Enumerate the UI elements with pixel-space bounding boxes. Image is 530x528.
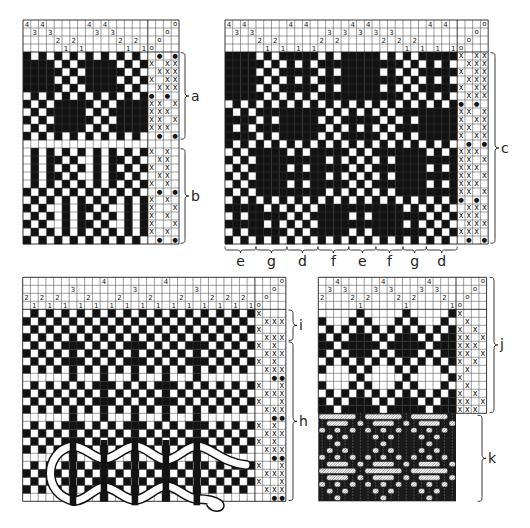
raised-warp-cell — [349, 397, 357, 405]
raised-warp-cell — [131, 421, 139, 429]
raised-warp-cell — [434, 212, 442, 220]
raised-warp-cell — [333, 228, 341, 236]
draft-panel-1: 4343212143432121oooo●●xxxxxxxxxxxx●●xxxx… — [23, 20, 200, 244]
raised-warp-cell — [372, 116, 380, 124]
raised-warp-cell — [208, 485, 216, 493]
raised-warp-cell — [131, 317, 139, 325]
threading-number: 1 — [451, 45, 455, 53]
raised-warp-cell — [131, 365, 139, 373]
raised-warp-cell — [224, 485, 232, 493]
liftplan-cross: x — [256, 437, 261, 446]
raised-warp-cell — [100, 389, 108, 397]
raised-warp-cell — [388, 212, 396, 220]
raised-warp-cell — [193, 317, 201, 325]
raised-warp-cell — [54, 84, 62, 92]
raised-warp-cell — [193, 333, 201, 341]
liftplan-dot: ● — [271, 454, 277, 462]
raised-warp-cell — [39, 52, 47, 60]
raised-warp-cell — [402, 397, 410, 405]
raised-warp-cell — [54, 68, 62, 76]
raised-warp-cell — [333, 180, 341, 188]
liftplan-cross: x — [466, 75, 471, 84]
raised-warp-cell — [264, 172, 272, 180]
raised-warp-cell — [426, 68, 434, 76]
raised-warp-cell — [433, 389, 441, 397]
raised-warp-cell — [402, 309, 410, 317]
raised-warp-cell — [23, 188, 31, 196]
raised-warp-cell — [318, 349, 326, 357]
raised-warp-cell — [318, 140, 326, 148]
raised-warp-cell — [380, 172, 388, 180]
raised-warp-cell — [140, 108, 148, 116]
raised-warp-cell — [326, 389, 334, 397]
raised-warp-cell — [326, 220, 334, 228]
raised-warp-cell — [372, 212, 380, 220]
liftplan-cross: x — [157, 155, 162, 164]
raised-warp-cell — [170, 421, 178, 429]
raised-warp-cell — [372, 228, 380, 236]
raised-warp-cell — [193, 413, 201, 421]
raised-warp-cell — [426, 132, 434, 140]
threading-number: 4 — [366, 21, 371, 29]
threading-number: 4 — [25, 21, 30, 29]
raised-warp-cell — [372, 196, 380, 204]
raised-warp-cell — [326, 148, 334, 156]
liftplan-cross: x — [457, 309, 462, 318]
threading-number: 3 — [358, 29, 362, 37]
liftplan-cross: x — [149, 179, 154, 188]
raised-warp-cell — [85, 389, 93, 397]
raised-warp-cell — [23, 204, 31, 212]
raised-warp-cell — [69, 317, 77, 325]
raised-warp-cell — [395, 365, 403, 373]
threading-number: 1 — [32, 302, 36, 310]
raised-warp-cell — [411, 164, 419, 172]
raised-warp-cell — [132, 52, 140, 60]
raised-warp-cell — [108, 341, 116, 349]
block-label: g — [267, 253, 276, 269]
raised-warp-cell — [310, 68, 318, 76]
threading-number: 4 — [164, 278, 169, 286]
raised-warp-cell — [402, 405, 410, 413]
section-brace — [491, 53, 499, 243]
raised-warp-cell — [85, 220, 93, 228]
raised-warp-cell — [39, 116, 47, 124]
raised-warp-cell — [310, 188, 318, 196]
raised-warp-cell — [240, 68, 248, 76]
raised-warp-cell — [341, 100, 349, 108]
raised-warp-cell — [123, 341, 131, 349]
raised-warp-cell — [46, 60, 54, 68]
raised-warp-cell — [233, 100, 241, 108]
raised-warp-cell — [124, 180, 132, 188]
raised-warp-cell — [410, 397, 418, 405]
threading-number: 2 — [397, 37, 401, 45]
threading-number: 2 — [396, 294, 400, 302]
raised-warp-cell — [225, 140, 233, 148]
raised-warp-cell — [302, 60, 310, 68]
threading-number: 3 — [32, 29, 36, 37]
raised-warp-cell — [357, 196, 365, 204]
liftplan-cross: x — [264, 317, 269, 326]
raised-warp-cell — [233, 180, 241, 188]
raised-warp-cell — [61, 325, 69, 333]
raised-warp-cell — [364, 204, 372, 212]
raised-warp-cell — [425, 333, 433, 341]
raised-warp-cell — [434, 188, 442, 196]
liftplan-cross: x — [457, 373, 462, 382]
raised-warp-cell — [46, 180, 54, 188]
raised-warp-cell — [101, 116, 109, 124]
raised-warp-cell — [256, 148, 264, 156]
raised-warp-cell — [70, 52, 78, 60]
raised-warp-cell — [264, 188, 272, 196]
raised-warp-cell — [201, 357, 209, 365]
raised-warp-cell — [341, 228, 349, 236]
raised-warp-cell — [123, 421, 131, 429]
raised-warp-cell — [264, 108, 272, 116]
raised-warp-cell — [225, 204, 233, 212]
raised-warp-cell — [185, 325, 193, 333]
liftplan-dot: ● — [157, 188, 163, 196]
raised-warp-cell — [387, 357, 395, 365]
raised-warp-cell — [62, 92, 70, 100]
raised-warp-cell — [271, 124, 279, 132]
raised-warp-cell — [93, 196, 101, 204]
raised-warp-cell — [185, 357, 193, 365]
